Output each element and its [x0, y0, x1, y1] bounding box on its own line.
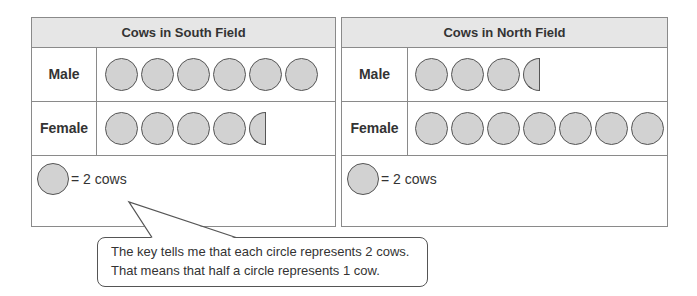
callout-tail-icon: [0, 0, 697, 296]
